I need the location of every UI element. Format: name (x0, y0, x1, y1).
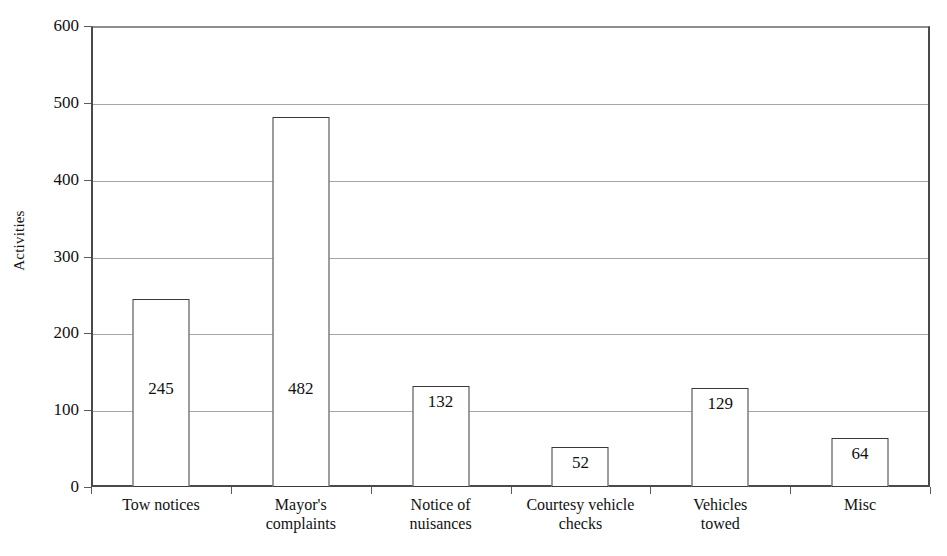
y-tick-label: 400 (19, 170, 79, 190)
y-tick-mark (84, 26, 91, 27)
x-category-label: Misc (785, 496, 935, 515)
bar-chart: Activities 2454821325212964 Tow noticesM… (0, 0, 947, 556)
x-category-label: Notice ofnuisances (366, 496, 516, 533)
x-category-label-line: towed (645, 515, 795, 534)
x-tick-mark (371, 487, 372, 494)
x-category-label-line: Courtesy vehicle (505, 496, 655, 515)
y-tick-mark (84, 103, 91, 104)
gridline-200 (93, 334, 928, 335)
x-category-label: Vehiclestowed (645, 496, 795, 533)
y-tick-label: 0 (19, 477, 79, 497)
gridline-100 (93, 411, 928, 412)
y-tick-mark (84, 257, 91, 258)
x-tick-mark (930, 487, 931, 494)
x-tick-mark (231, 487, 232, 494)
y-tick-label: 600 (19, 16, 79, 36)
y-tick-label: 300 (19, 247, 79, 267)
y-tick-mark (84, 180, 91, 181)
x-category-label-line: Tow notices (86, 496, 236, 515)
y-tick-mark (84, 487, 91, 488)
gridline-500 (93, 104, 928, 105)
plot-area (91, 26, 930, 487)
gridline-600 (93, 27, 928, 28)
x-category-label-line: nuisances (366, 515, 516, 534)
x-category-label-line: Misc (785, 496, 935, 515)
x-axis-layer: Tow noticesMayor'scomplaintsNotice ofnui… (91, 487, 930, 556)
gridline-300 (93, 258, 928, 259)
x-category-label-line: checks (505, 515, 655, 534)
x-category-label-line: Mayor's (226, 496, 376, 515)
x-category-label-line: complaints (226, 515, 376, 534)
x-category-label-line: Vehicles (645, 496, 795, 515)
y-tick-mark (84, 410, 91, 411)
x-tick-mark (91, 487, 92, 494)
x-tick-mark (790, 487, 791, 494)
x-category-label: Mayor'scomplaints (226, 496, 376, 533)
x-category-label: Tow notices (86, 496, 236, 515)
x-tick-mark (511, 487, 512, 494)
x-category-label: Courtesy vehiclechecks (505, 496, 655, 533)
y-axis-title: Activities (11, 191, 28, 291)
x-tick-mark (650, 487, 651, 494)
y-tick-label: 100 (19, 400, 79, 420)
gridline-400 (93, 181, 928, 182)
y-tick-label: 500 (19, 93, 79, 113)
y-tick-label: 200 (19, 323, 79, 343)
x-category-label-line: Notice of (366, 496, 516, 515)
y-tick-mark (84, 333, 91, 334)
